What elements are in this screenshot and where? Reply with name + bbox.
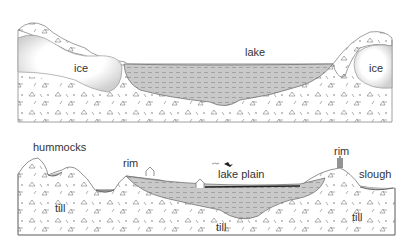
house-icon: [146, 167, 154, 176]
glacial-lake-diagram: lake ice ice hummocks rim lake plain rim…: [0, 0, 412, 247]
bird-icon: [224, 162, 233, 167]
top-panel: lake ice ice: [18, 23, 392, 122]
label-till-left: till: [55, 202, 65, 214]
label-till-center: till: [216, 221, 226, 233]
bottom-panel: hummocks rim lake plain rim slough till …: [18, 141, 395, 235]
label-till-right: till: [352, 211, 362, 223]
house-icon: [196, 179, 204, 188]
label-rim-right: rim: [334, 145, 349, 157]
label-lake: lake: [245, 46, 265, 58]
lake-plain-surface: [205, 186, 300, 187]
label-ice-right: ice: [369, 62, 383, 74]
label-hummocks: hummocks: [33, 141, 87, 153]
label-slough: slough: [359, 168, 391, 180]
label-rim-left: rim: [123, 157, 138, 169]
label-ice-left: ice: [74, 62, 88, 74]
label-lake-plain: lake plain: [218, 168, 264, 180]
tree-icon: [338, 156, 342, 168]
